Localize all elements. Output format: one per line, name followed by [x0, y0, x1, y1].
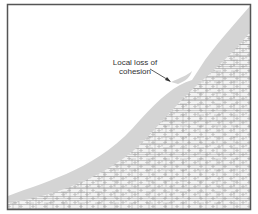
- slope-diagram: [0, 0, 258, 214]
- annotation-line-2: cohesion: [105, 67, 165, 76]
- annotation-label: Local loss of cohesion: [105, 58, 165, 76]
- annotation-line-1: Local loss of: [105, 58, 165, 67]
